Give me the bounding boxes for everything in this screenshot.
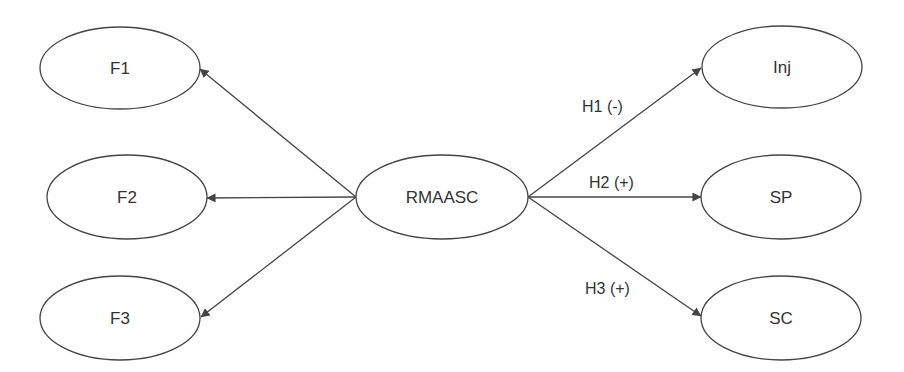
edge-rmaasc-to-f1	[200, 69, 356, 197]
edge-label-h2: H2 (+)	[589, 174, 634, 192]
node-label-sc: SC	[769, 309, 793, 329]
edge-label-h3: H3 (+)	[585, 280, 630, 298]
edge-rmaasc-to-sc	[528, 197, 701, 316]
node-label-f1: F1	[110, 59, 130, 79]
edge-rmaasc-to-f2	[207, 197, 356, 198]
node-label-f2: F2	[117, 188, 137, 208]
node-label-f3: F3	[110, 309, 130, 329]
node-label-rmaasc: RMAASC	[406, 188, 479, 208]
edge-rmaasc-to-f3	[201, 197, 356, 317]
edge-label-h1: H1 (-)	[582, 98, 623, 116]
node-label-inj: Inj	[773, 58, 791, 78]
node-label-sp: SP	[770, 188, 793, 208]
